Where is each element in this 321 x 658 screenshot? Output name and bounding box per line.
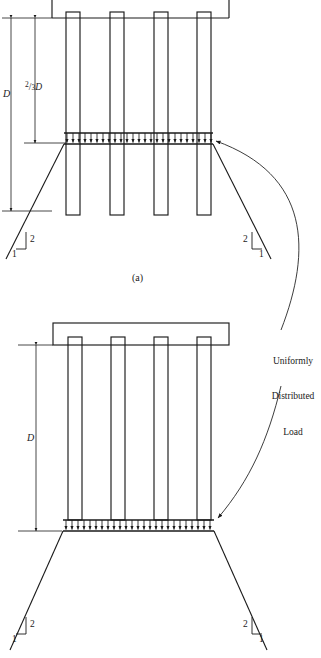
uniform-load-b [63,520,214,531]
depth-label-D-b: D [27,432,34,444]
subfigure-b-group [10,323,267,650]
subfigure-caption-a: (a) [132,272,143,284]
annotation-line-3: Load [265,427,321,439]
slope-triangle-left-a [16,232,26,249]
uniform-load-annotation: Uniformly Distributed Load [265,332,321,463]
slope-vertical-left-b: 2 [30,619,35,630]
depth-label-D-a: D [3,88,10,100]
depth-label-two-thirds-D-a: 2/3D [25,81,42,93]
pile-cap-b [53,323,229,345]
slope-triangle-right-a [252,232,262,249]
piles-a [66,12,211,215]
fraction-numerator-a: 2 [25,80,29,89]
slope-horizontal-right-a: 1 [259,249,264,260]
dimension-D-b [18,345,62,531]
slope-vertical-left-a: 2 [30,234,35,245]
slope-vertical-right-b: 2 [243,619,248,630]
figure-root: D 2/3D 2 1 2 1 (a) D 2 1 2 1 Uniformly D… [0,0,321,658]
subfigure-a-group [2,0,271,259]
annotation-line-1: Uniformly [265,356,321,368]
slope-horizontal-left-b: 1 [12,634,17,645]
slope-horizontal-left-a: 1 [12,249,17,260]
slope-horizontal-right-b: 1 [259,634,264,645]
leader-to-load-a [216,141,299,330]
piles-b [68,337,211,520]
uniform-load-a [64,133,213,144]
fraction-suffix-a: D [35,82,42,92]
pile-cap-a [52,0,229,18]
pile-group-diagram-svg [0,0,321,658]
load-spread-lines-a [6,144,271,259]
load-spread-lines-b [10,531,267,650]
slope-vertical-right-a: 2 [243,234,248,245]
annotation-line-2: Distributed [265,391,321,403]
